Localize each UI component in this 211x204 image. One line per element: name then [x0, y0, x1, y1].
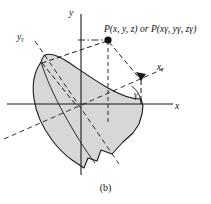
x-axis-label: x [175, 101, 179, 111]
point-p-label: P(x, y, z) or P(xγ, yγ, zγ) [104, 24, 196, 34]
figure-container: P(x, y, z) or P(xγ, yγ, zγ) y x yγ xγ γ … [0, 0, 211, 204]
x-gamma-axis-label-subscript: γ [161, 66, 163, 72]
point-p-label-text: P(x, y, z) or P(xγ, yγ, zγ) [104, 23, 196, 34]
gamma-angle-label-text: γ [134, 89, 138, 100]
x-axis-label-text: x [175, 100, 179, 111]
x-gamma-axis-label: xγ [157, 62, 164, 73]
figure-caption-text: (b) [100, 182, 112, 193]
y-gamma-axis-label-subscript: γ [21, 36, 23, 42]
y-axis-label: y [69, 8, 73, 18]
projection-edge-toward-y-gamma [42, 41, 107, 63]
y-axis-label-text: y [69, 7, 73, 18]
y-gamma-axis-label: yγ [17, 32, 24, 43]
gamma-angle-label: γ [134, 90, 138, 100]
projection-edge-toward-x-gamma [109, 42, 141, 80]
wing-planform-shape [33, 54, 143, 168]
point-p-marker [104, 36, 111, 43]
figure-caption: (b) [0, 182, 211, 193]
